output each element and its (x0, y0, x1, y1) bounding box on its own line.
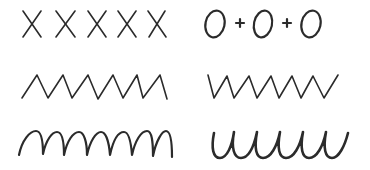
plus-icon (283, 19, 291, 27)
x-mark-icon (148, 11, 166, 37)
plus-icon (236, 19, 244, 27)
pattern-worksheet (0, 0, 370, 170)
x-marks-pattern (23, 11, 166, 37)
x-mark-icon (56, 11, 75, 37)
x-mark-icon (23, 11, 41, 37)
circle-o-icon (251, 9, 274, 39)
x-mark-icon (88, 11, 106, 37)
x-mark-icon (118, 11, 136, 37)
zigzag-down-pattern (208, 75, 338, 98)
circle-o-icon (299, 9, 323, 39)
circle-o-icon (203, 9, 227, 39)
zigzag-up-pattern (22, 75, 167, 99)
circles-plus-pattern (203, 9, 323, 39)
arches-pattern (19, 131, 172, 157)
cups-pattern (213, 132, 348, 158)
